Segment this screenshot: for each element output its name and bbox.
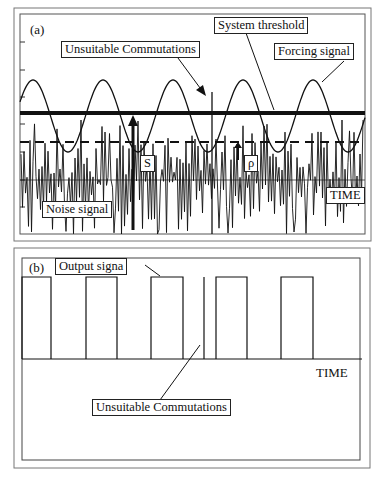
leader-forcing bbox=[322, 61, 344, 82]
label-noise-signal: Noise signal bbox=[42, 201, 112, 218]
label-time-a: TIME bbox=[326, 187, 365, 204]
output-signal-pulses bbox=[22, 277, 313, 359]
leader-unsuitable-a bbox=[178, 58, 203, 92]
label-time-b: TIME bbox=[316, 365, 348, 380]
panel-a-tag: (a) bbox=[30, 22, 44, 37]
label-s: S bbox=[140, 155, 155, 172]
leader-threshold bbox=[246, 33, 274, 110]
label-unsuitable-commutations-a: Unsuitable Commutations bbox=[61, 41, 200, 58]
label-rho: ρ bbox=[244, 155, 258, 172]
label-unsuitable-commutations-b: Unsuitable Commutations bbox=[92, 399, 231, 416]
s-arrow-head-icon bbox=[128, 115, 138, 126]
leader-unsuitable-a-arrow-icon bbox=[196, 85, 206, 96]
panel-b-tag: (b) bbox=[29, 260, 44, 275]
label-forcing-signal: Forcing signal bbox=[274, 43, 354, 60]
leader-unsuitable-b bbox=[160, 345, 200, 400]
panel-b-outer-frame bbox=[14, 248, 370, 468]
label-output-signal: Output signa bbox=[55, 258, 127, 275]
panel-a-y-axis-ticks bbox=[20, 42, 25, 207]
leader-output bbox=[145, 265, 160, 276]
label-system-threshold: System threshold bbox=[214, 17, 308, 34]
